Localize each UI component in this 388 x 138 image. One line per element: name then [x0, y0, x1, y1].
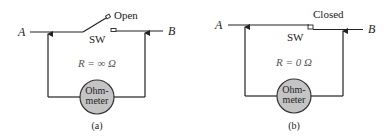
- node-b-label: B: [368, 22, 376, 36]
- switch-state-label: Open: [114, 9, 138, 21]
- switch-blade-tip: [106, 14, 111, 19]
- switch-label: SW: [89, 33, 106, 45]
- resistance-label: R = ∞ Ω: [77, 57, 116, 69]
- panel-caption: (b): [288, 120, 300, 132]
- panel-a-open-switch: A B Open SW R = ∞ Ω Ohm- meter (a): [17, 9, 176, 132]
- panel-b-closed-switch: A B Closed SW R = 0 Ω Ohm- meter (b): [214, 8, 376, 132]
- panel-caption: (a): [91, 120, 102, 132]
- switch-label: SW: [287, 31, 304, 43]
- node-a-label: A: [17, 25, 26, 39]
- switch-blade-open: [83, 18, 106, 32]
- switch-state-label: Closed: [313, 8, 344, 20]
- meter-label-line2: meter: [283, 94, 306, 105]
- switch-contact: [111, 29, 116, 32]
- meter-label-line2: meter: [86, 95, 109, 106]
- resistance-label: R = 0 Ω: [275, 56, 312, 68]
- ohmmeter-switch-diagram: A B Open SW R = ∞ Ω Ohm- meter (a) A B C…: [0, 0, 388, 138]
- node-a-label: A: [214, 18, 223, 32]
- node-b-label: B: [168, 24, 176, 38]
